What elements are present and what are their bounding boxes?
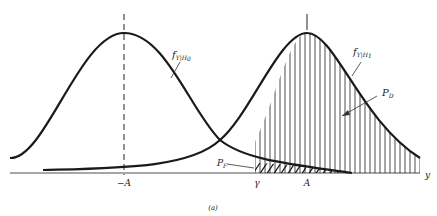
axis-label-y: y [424,170,431,180]
curve-h1-label: fY|H1 [352,46,372,59]
pf-label: PF [216,158,228,169]
tick-label-gamma: γ [254,178,260,188]
pf-region-hatch [252,160,353,175]
pd-region-hatch [255,20,420,173]
pd-label: PD [381,87,394,99]
pf-label-arrow [227,164,254,168]
curve-h0-label: fY|H0 [171,49,191,62]
figure-caption: (a) [208,204,218,212]
tick-label-neg-a: −A [117,178,132,188]
h1-label-arrow [352,62,361,76]
detection-diagram: fY|H0 fY|H1 PD PF −A γ A y (a) [0,0,437,216]
tick-label-a: A [303,178,311,188]
